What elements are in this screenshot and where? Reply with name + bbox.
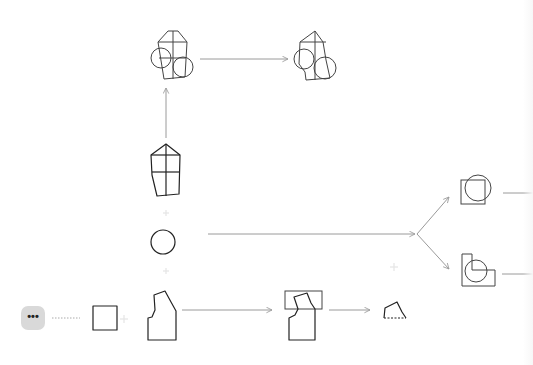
more-horizontal-icon: ••• [27,311,39,322]
bodice-rect-overlay-icon[interactable] [285,291,322,340]
bodice-circles-icon[interactable] [151,31,193,79]
arrow [417,197,449,234]
diagram-canvas [0,0,533,365]
plus-icon [390,263,398,271]
plus-icon [163,268,169,274]
square-circle-union-icon[interactable] [461,175,491,204]
scroll-fade-edge [523,0,533,365]
l-shape-circle-icon[interactable] [462,254,495,286]
arrow [417,234,449,269]
plus-icon [120,315,128,323]
bodice-block-icon[interactable] [151,144,180,196]
more-button[interactable]: ••• [21,306,45,330]
rounded-bodice-circles-icon[interactable] [294,31,336,80]
circle-icon[interactable] [151,230,175,254]
plus-icon [163,210,169,216]
bodice-front-icon[interactable] [148,291,176,340]
shoulder-piece-icon[interactable] [384,302,406,318]
square-icon[interactable] [93,306,117,330]
